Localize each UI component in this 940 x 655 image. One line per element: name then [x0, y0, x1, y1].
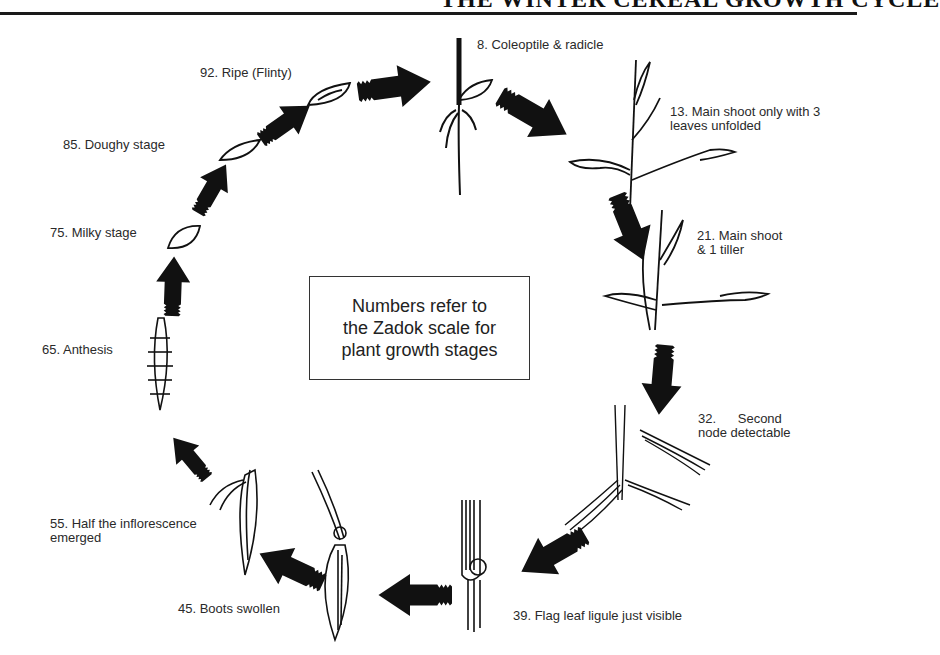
arrow-39-to-45 — [379, 574, 453, 616]
second-node-sketch — [565, 405, 710, 532]
stage-label-85: 85. Doughy stage — [63, 138, 165, 152]
main-shoot-3-leaves-sketch — [570, 60, 735, 210]
stage-label-8: 8. Coleoptile & radicle — [477, 38, 603, 52]
stage-label-65: 65. Anthesis — [42, 343, 113, 357]
grain-doughy-sketch — [220, 140, 260, 160]
stage-label-32: 32. Second node detectable — [698, 412, 791, 440]
stage-label-13: 13. Main shoot only with 3 leaves unfold… — [670, 105, 820, 133]
flag-leaf-ligule-sketch — [462, 500, 486, 632]
stage-label-55: 55. Half the inflorescence emerged — [50, 517, 197, 545]
grain-milky-sketch — [168, 226, 200, 248]
zadok-scale-note: Numbers refer to the Zadok scale for pla… — [309, 276, 530, 380]
stage-label-21: 21. Main shoot & 1 tiller — [697, 229, 782, 257]
arrow-21-to-32 — [639, 343, 685, 416]
stage-label-39: 39. Flag leaf ligule just visible — [513, 609, 682, 623]
arrow-45-to-55 — [251, 535, 331, 601]
seedling-sketch — [440, 38, 492, 195]
arrow-65-to-75 — [155, 256, 191, 317]
stage-label-75: 75. Milky stage — [50, 226, 137, 240]
arrow-8-to-13 — [489, 77, 578, 154]
arrow-55-to-65 — [162, 428, 219, 488]
half-inflorescence-sketch — [210, 470, 257, 575]
anthesis-ear-sketch — [147, 318, 173, 410]
stage-label-45: 45. Boots swollen — [178, 602, 280, 616]
arrow-92-to-8 — [355, 61, 434, 113]
stage-label-92: 92. Ripe (Flinty) — [200, 66, 292, 80]
boots-swollen-sketch — [312, 470, 348, 640]
grain-ripe-sketch — [308, 83, 350, 105]
arrow-75-to-85 — [184, 157, 240, 221]
